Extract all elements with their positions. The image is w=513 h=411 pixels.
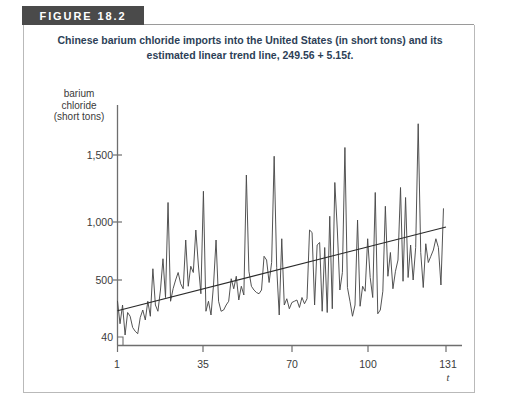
- caption-line-2-text: estimated linear trend line, 249.56 + 5.…: [147, 49, 347, 61]
- y-axis-title-line-2: chloride: [61, 100, 96, 111]
- caption-line-1: Chinese barium chloride imports into the…: [57, 34, 442, 46]
- y-tick-label-1000: 1,000: [53, 216, 113, 228]
- x-tick-label-100: 100: [348, 358, 388, 370]
- x-axis-title: t: [436, 372, 460, 383]
- x-tick-label-131: 131: [428, 358, 468, 370]
- x-tick-label-35: 35: [183, 358, 223, 370]
- figure-container: FIGURE 18.2 Chinese barium chloride impo…: [0, 0, 513, 411]
- y-tick-label-40: 40: [53, 331, 113, 343]
- y-axis-title-line-1: barium: [64, 88, 95, 99]
- x-tick-label-70: 70: [272, 358, 312, 370]
- y-tick-label-500: 500: [53, 274, 113, 286]
- x-tick-label-1: 1: [97, 358, 137, 370]
- y-axis-title-line-3: (short tons): [54, 111, 105, 122]
- figure-number-banner: FIGURE 18.2: [22, 6, 144, 25]
- y-tick-label-1500: 1,500: [53, 149, 113, 161]
- caption-line-2-period: .: [351, 49, 354, 61]
- banner-rule: [144, 24, 474, 25]
- y-axis-title: barium chloride (short tons): [40, 88, 118, 123]
- figure-caption: Chinese barium chloride imports into the…: [45, 33, 455, 63]
- figure-number-label: FIGURE 18.2: [40, 10, 127, 22]
